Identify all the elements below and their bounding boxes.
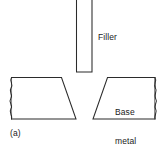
- welding-joint-diagram: Filler Base metal (a): [0, 0, 163, 154]
- base-metal-label-line1: Base: [115, 108, 136, 118]
- figure-caption: (a): [10, 129, 21, 139]
- left-base-metal-workpiece: [12, 78, 77, 120]
- base-metal-label-line2: metal: [115, 137, 136, 147]
- diagram-canvas: [0, 0, 163, 154]
- filler-rod: [77, 0, 93, 72]
- base-metal-label: Base metal: [115, 88, 136, 154]
- filler-label: Filler: [98, 33, 117, 43]
